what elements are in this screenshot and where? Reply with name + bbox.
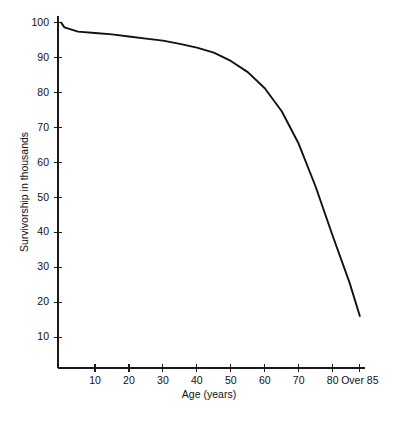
plot-area — [61, 23, 360, 317]
survivorship-line-chart: 102030405060708090100 1020304050607080Ov… — [0, 0, 400, 421]
x-tick-label: 10 — [89, 374, 101, 386]
x-tick-label: Over 85 — [341, 374, 379, 386]
x-tick-label: 50 — [225, 374, 237, 386]
y-axis-ticks: 102030405060708090100 — [31, 16, 62, 343]
y-tick-label: 70 — [37, 121, 49, 133]
y-axis: 102030405060708090100 — [31, 16, 62, 368]
x-axis: 1020304050607080Over 85 — [58, 364, 379, 386]
y-tick-label: 10 — [37, 330, 49, 342]
y-tick-label: 80 — [37, 86, 49, 98]
y-tick-label: 20 — [37, 295, 49, 307]
y-tick-label: 30 — [37, 260, 49, 272]
y-tick-label: 40 — [37, 225, 49, 237]
x-tick-label: 70 — [293, 374, 305, 386]
chart-figure: 102030405060708090100 1020304050607080Ov… — [0, 0, 400, 421]
x-axis-title: Age (years) — [182, 388, 236, 400]
x-tick-label: 30 — [157, 374, 169, 386]
y-axis-title: Survivorship in thousands — [18, 132, 30, 252]
y-tick-label: 100 — [31, 16, 49, 28]
y-tick-label: 90 — [37, 51, 49, 63]
x-tick-label: 60 — [259, 374, 271, 386]
survivorship-curve — [61, 23, 360, 317]
x-axis-ticks: 1020304050607080Over 85 — [89, 364, 378, 386]
x-tick-label: 20 — [123, 374, 135, 386]
x-tick-label: 80 — [327, 374, 339, 386]
y-tick-label: 60 — [37, 156, 49, 168]
x-tick-label: 40 — [191, 374, 203, 386]
y-tick-label: 50 — [37, 191, 49, 203]
